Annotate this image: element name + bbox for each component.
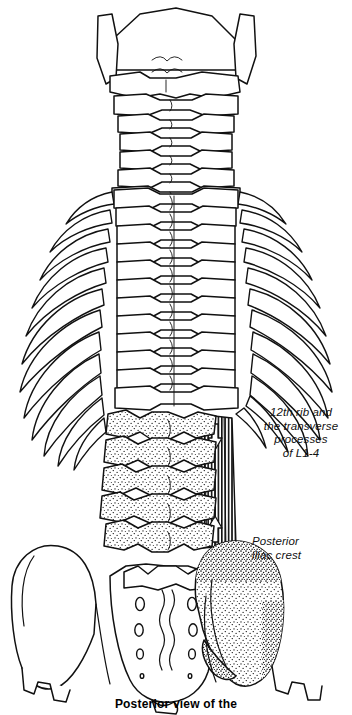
vertebra-c1 [110, 72, 240, 98]
occiput [108, 8, 243, 70]
vertebra-c6 [118, 168, 234, 188]
cervical-spine-group [110, 72, 240, 206]
sacral-foramen-right-2 [189, 624, 197, 636]
skull-base-group [97, 8, 256, 84]
vertebra-c4 [120, 132, 232, 152]
mastoid-process-right [234, 14, 256, 84]
sacroiliac-joint-left [96, 604, 110, 684]
label-posterior-iliac-crest: Posterior iliac crest [252, 535, 350, 562]
sacral-foramen-left-4 [140, 674, 144, 679]
sacral-foramen-right-4 [188, 674, 192, 679]
sacral-foramen-left-2 [135, 624, 143, 636]
mastoid-process-left [97, 14, 118, 84]
pelvis-group [11, 536, 322, 714]
vertebra-t12 [115, 386, 238, 410]
vertebra-l4 [100, 492, 216, 524]
figure-caption: Posterior view of the [0, 697, 352, 711]
ischium-right [272, 666, 322, 700]
sacral-foramen-left-3 [137, 649, 144, 659]
vertebra-l2 [104, 436, 216, 468]
sacral-foramen-right-1 [188, 597, 197, 610]
sacral-foramen-right-3 [189, 649, 196, 659]
skeleton-illustration [0, 0, 352, 715]
label-12th-rib-and-transverse-processes: 12th rib and the transverse processes of… [252, 406, 350, 460]
vertebra-l3 [102, 464, 216, 496]
vertebra-l5 [104, 520, 214, 552]
lumbar-spine-group [100, 410, 216, 552]
anatomical-figure: 12th rib and the transverse processes of… [0, 0, 352, 715]
thoracic-spine-group [114, 188, 238, 410]
vertebra-c3 [118, 114, 234, 134]
vertebra-l1 [106, 410, 216, 440]
ilium-left [11, 545, 96, 689]
vertebra-c5 [120, 150, 232, 170]
sacral-foramen-left-1 [136, 597, 145, 610]
